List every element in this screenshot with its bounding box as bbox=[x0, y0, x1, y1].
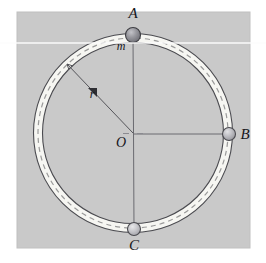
label-a: A bbox=[127, 5, 138, 21]
label-mass-m: m bbox=[117, 39, 126, 53]
bead-a[interactable] bbox=[126, 28, 141, 43]
label-b: B bbox=[240, 126, 249, 142]
bead-c[interactable] bbox=[128, 223, 141, 236]
label-c: C bbox=[129, 237, 140, 253]
label-center-o: O bbox=[116, 135, 126, 150]
bead-b[interactable] bbox=[223, 128, 236, 141]
label-radius-r: r bbox=[90, 87, 95, 101]
figure-container: A m B C O r bbox=[0, 0, 266, 263]
ring-diagram-svg: A m B C O r bbox=[0, 0, 266, 263]
